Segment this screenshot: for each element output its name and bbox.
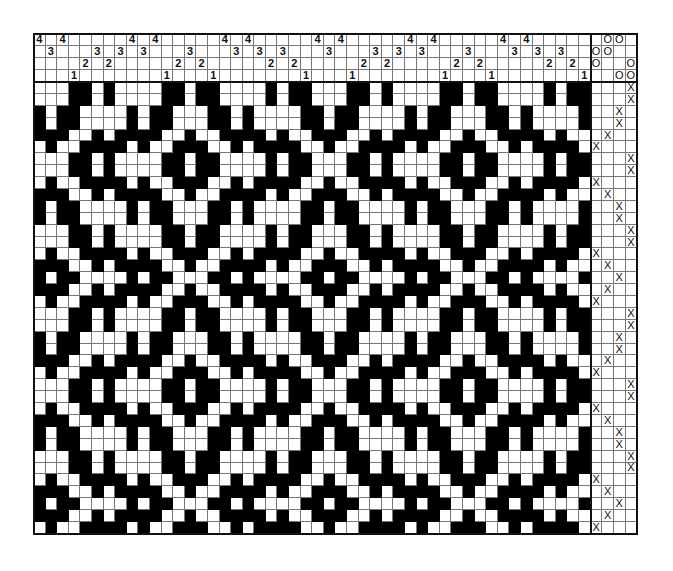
drawdown-cell xyxy=(359,213,371,225)
drawdown-cell xyxy=(370,106,382,118)
drawdown-cell xyxy=(347,403,359,415)
drawdown-cell xyxy=(69,248,81,260)
drawdown-cell xyxy=(533,451,545,463)
drawdown-raised-cell xyxy=(57,486,69,498)
drawdown-raised-cell xyxy=(69,439,81,451)
drawdown-raised-cell xyxy=(451,225,463,237)
drawdown-raised-cell xyxy=(162,272,174,284)
drawdown-raised-cell xyxy=(150,106,162,118)
drawdown-cell xyxy=(254,463,266,475)
drawdown-cell xyxy=(185,498,197,510)
drawdown-cell xyxy=(324,237,336,249)
drawdown-raised-cell xyxy=(69,427,81,439)
drawdown-raised-cell xyxy=(579,237,591,249)
drawdown-raised-cell xyxy=(196,391,208,403)
drawdown-raised-cell xyxy=(393,522,405,534)
threading-cell xyxy=(243,58,255,70)
drawdown-cell xyxy=(46,320,58,332)
drawdown-raised-cell xyxy=(57,130,69,142)
drawdown-raised-cell xyxy=(498,272,510,284)
drawdown-cell xyxy=(556,118,568,130)
drawdown-raised-cell xyxy=(104,296,116,308)
drawdown-raised-cell xyxy=(266,403,278,415)
drawdown-raised-cell xyxy=(115,130,127,142)
drawdown-cell xyxy=(46,272,58,284)
drawdown-raised-cell xyxy=(254,415,266,427)
drawdown-raised-cell xyxy=(34,510,46,522)
drawdown-raised-cell xyxy=(475,82,487,94)
drawdown-raised-cell xyxy=(417,130,429,142)
drawdown-raised-cell xyxy=(208,201,220,213)
drawdown-raised-cell xyxy=(127,355,139,367)
drawdown-raised-cell xyxy=(80,379,92,391)
drawdown-cell xyxy=(544,130,556,142)
drawdown-cell xyxy=(266,355,278,367)
drawdown-raised-cell xyxy=(498,284,510,296)
drawdown-cell xyxy=(579,284,591,296)
drawdown-cell xyxy=(463,439,475,451)
drawdown-raised-cell xyxy=(115,284,127,296)
drawdown-raised-cell xyxy=(80,367,92,379)
drawdown-raised-cell xyxy=(220,427,232,439)
drawdown-raised-cell xyxy=(34,118,46,130)
drawdown-raised-cell xyxy=(150,415,162,427)
drawdown-raised-cell xyxy=(289,141,301,153)
drawdown-cell xyxy=(324,118,336,130)
drawdown-cell xyxy=(451,106,463,118)
drawdown-raised-cell xyxy=(359,165,371,177)
treadling-mark: X xyxy=(614,213,626,225)
drawdown-cell xyxy=(335,165,347,177)
drawdown-raised-cell xyxy=(266,463,278,475)
drawdown-cell xyxy=(80,284,92,296)
drawdown-raised-cell xyxy=(289,82,301,94)
drawdown-cell xyxy=(231,308,243,320)
drawdown-cell xyxy=(486,522,498,534)
drawdown-cell xyxy=(196,201,208,213)
drawdown-raised-cell xyxy=(289,451,301,463)
drawdown-raised-cell xyxy=(405,510,417,522)
drawdown-cell xyxy=(405,522,417,534)
treadling-cell xyxy=(626,106,638,118)
drawdown-raised-cell xyxy=(231,130,243,142)
treadling-mark: X xyxy=(614,106,626,118)
drawdown-cell xyxy=(254,165,266,177)
drawdown-cell xyxy=(382,272,394,284)
drawdown-raised-cell xyxy=(312,130,324,142)
drawdown-raised-cell xyxy=(463,248,475,260)
drawdown-raised-cell xyxy=(196,165,208,177)
drawdown-raised-cell xyxy=(254,403,266,415)
drawdown-cell xyxy=(162,522,174,534)
drawdown-cell xyxy=(405,308,417,320)
drawdown-raised-cell xyxy=(220,260,232,272)
drawdown-cell xyxy=(370,201,382,213)
drawdown-cell xyxy=(34,391,46,403)
treadling-mark: X xyxy=(626,320,638,332)
threading-cell xyxy=(220,46,232,58)
drawdown-raised-cell xyxy=(556,141,568,153)
drawdown-raised-cell xyxy=(243,213,255,225)
drawdown-cell xyxy=(370,379,382,391)
drawdown-raised-cell xyxy=(521,498,533,510)
drawdown-cell xyxy=(34,177,46,189)
drawdown-cell xyxy=(312,379,324,391)
drawdown-raised-cell xyxy=(567,296,579,308)
drawdown-cell xyxy=(521,474,533,486)
drawdown-raised-cell xyxy=(312,344,324,356)
drawdown-raised-cell xyxy=(104,237,116,249)
treadling-cell xyxy=(591,427,603,439)
treadling-cell xyxy=(626,248,638,260)
drawdown-cell xyxy=(417,153,429,165)
drawdown-cell xyxy=(115,379,127,391)
drawdown-cell xyxy=(127,165,139,177)
drawdown-cell xyxy=(486,367,498,379)
drawdown-cell xyxy=(475,344,487,356)
threading-mark: 3 xyxy=(277,46,289,58)
drawdown-raised-cell xyxy=(498,201,510,213)
drawdown-cell xyxy=(301,415,313,427)
drawdown-raised-cell xyxy=(208,82,220,94)
drawdown-raised-cell xyxy=(359,153,371,165)
drawdown-cell xyxy=(69,415,81,427)
drawdown-raised-cell xyxy=(567,379,579,391)
drawdown-cell xyxy=(138,272,150,284)
drawdown-cell xyxy=(475,498,487,510)
